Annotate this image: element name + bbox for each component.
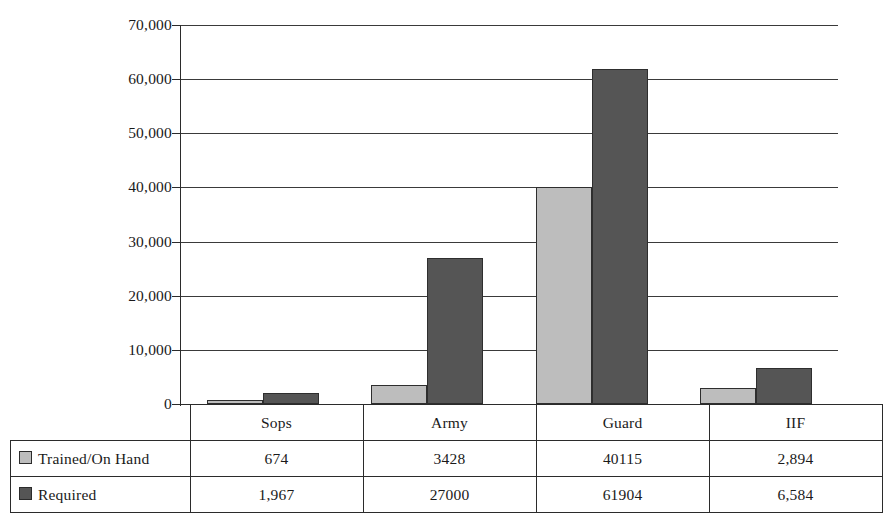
legend-label: Required: [38, 486, 96, 503]
legend-swatch-icon: [19, 487, 32, 500]
bar-group-sops: [181, 25, 345, 404]
y-tick-label-60000: 60,000: [0, 71, 172, 86]
bar-group-iif: [674, 25, 838, 404]
legend-swatch-icon: [19, 451, 32, 464]
y-tick-60000: [172, 79, 181, 80]
table-row: Required1,96727000619046,584: [11, 477, 883, 513]
plot-area: [181, 25, 838, 404]
table-cell-iif: 2,894: [709, 441, 882, 477]
y-tick-label-30000: 30,000: [0, 234, 172, 249]
table-cell-sops: 674: [190, 441, 363, 477]
data-table: SopsArmyGuardIIFTrained/On Hand674342840…: [10, 404, 883, 513]
bar-guard-trained-on-hand: [536, 187, 592, 404]
table-cell-guard: 40115: [536, 441, 709, 477]
legend-item-required: Required: [11, 477, 191, 513]
table-cell-army: 27000: [363, 477, 536, 513]
table-cell-guard: 61904: [536, 477, 709, 513]
y-tick-70000: [172, 25, 181, 26]
table-cell-iif: 6,584: [709, 477, 882, 513]
bar-iif-required: [756, 368, 812, 404]
table-cell-sops: 1,967: [190, 477, 363, 513]
table-cell-army: 3428: [363, 441, 536, 477]
y-tick-label-70000: 70,000: [0, 17, 172, 32]
y-tick-30000: [172, 242, 181, 243]
category-header-iif: IIF: [709, 405, 882, 441]
y-tick-label-40000: 40,000: [0, 179, 172, 194]
bar-army-required: [427, 258, 483, 404]
bar-army-trained-on-hand: [371, 385, 427, 404]
y-tick-10000: [172, 350, 181, 351]
y-tick-50000: [172, 133, 181, 134]
bar-group-guard: [510, 25, 674, 404]
bar-guard-required: [592, 69, 648, 404]
category-header-sops: Sops: [190, 405, 363, 441]
table-row: Trained/On Hand6743428401152,894: [11, 441, 883, 477]
table-corner-cell: [11, 405, 191, 441]
bar-group-army: [345, 25, 509, 404]
y-tick-20000: [172, 296, 181, 297]
bar-sops-required: [263, 393, 319, 404]
category-header-army: Army: [363, 405, 536, 441]
legend-label: Trained/On Hand: [38, 450, 149, 467]
table-header-row: SopsArmyGuardIIF: [11, 405, 883, 441]
category-header-guard: Guard: [536, 405, 709, 441]
y-tick-label-20000: 20,000: [0, 288, 172, 303]
y-tick-label-50000: 50,000: [0, 125, 172, 140]
legend-item-trained-on-hand: Trained/On Hand: [11, 441, 191, 477]
y-tick-label-10000: 10,000: [0, 342, 172, 357]
y-tick-40000: [172, 187, 181, 188]
bar-iif-trained-on-hand: [700, 388, 756, 404]
